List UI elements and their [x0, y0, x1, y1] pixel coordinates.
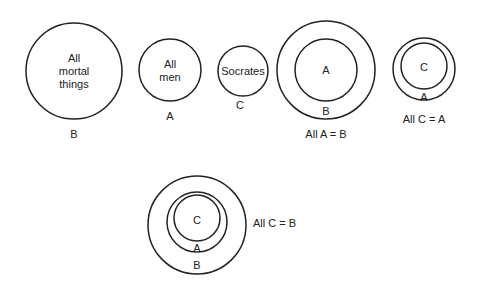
set-all-mortal-things: All mortal things B	[26, 23, 122, 140]
venn1-inner-label: A	[322, 64, 330, 76]
set-all-men: All men A	[139, 39, 201, 122]
set1-line3: things	[59, 78, 89, 90]
circle-a	[139, 39, 201, 101]
venn-all-a-b: A B All A = B	[277, 21, 375, 140]
set1-line1: All	[68, 52, 80, 64]
set1-label: B	[70, 128, 77, 140]
set2-line2: men	[159, 71, 180, 83]
venn-all-c-b: C A B All C = B	[148, 176, 296, 274]
venn2-outer-label: A	[420, 91, 428, 103]
set3-text: Socrates	[221, 65, 265, 77]
venn3-middle-label: A	[193, 242, 201, 254]
set2-label: A	[166, 110, 174, 122]
set3-label: C	[236, 99, 244, 111]
set1-line2: mortal	[59, 65, 90, 77]
venn2-caption: All C = A	[403, 113, 446, 125]
venn3-outer-label: B	[193, 259, 200, 271]
set2-line1: All	[164, 58, 176, 70]
venn1-outer-label: B	[322, 105, 329, 117]
syllogism-diagram: All mortal things B All men A Socrates C…	[0, 0, 478, 289]
venn3-inner-label: C	[193, 214, 201, 226]
venn3-caption: All C = B	[253, 217, 296, 229]
set-socrates: Socrates C	[218, 46, 268, 111]
venn1-caption: All A = B	[305, 128, 346, 140]
venn-all-c-a: C A All C = A	[393, 38, 455, 125]
venn2-inner-label: C	[420, 61, 428, 73]
